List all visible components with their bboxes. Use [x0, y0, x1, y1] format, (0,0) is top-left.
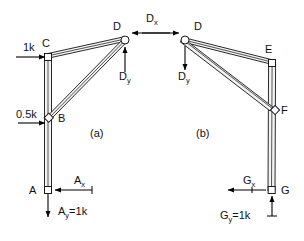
joint-label-E: E [265, 43, 272, 55]
subfigure-caption-b: (b) [196, 127, 209, 139]
member-B-D [47, 38, 127, 119]
joint-E [269, 60, 276, 67]
figure-canvas: 1k 0.5k Ax Ay=1k [0, 0, 304, 241]
joint-label-G: G [281, 184, 290, 196]
joint-D-right [181, 36, 189, 44]
joint-label-F: F [281, 104, 288, 116]
reaction-arrow-Ax [55, 186, 92, 194]
subfigure-caption-a: (a) [90, 127, 103, 139]
force-label-Dy-right: Dy [178, 70, 190, 85]
joint-G [268, 187, 275, 194]
force-label-Dy-left: Dy [119, 70, 131, 85]
joint-C [45, 54, 52, 61]
reaction-label-Gx: Gx [243, 174, 256, 189]
member-E-G [268, 63, 276, 191]
reaction-label-Gy: Gy=1k [220, 209, 251, 224]
reaction-label-Ay: Ay=1k [58, 205, 88, 220]
structural-free-body-diagram: 1k 0.5k Ax Ay=1k [0, 0, 304, 241]
joint-label-C: C [42, 37, 50, 49]
right-frame-group: Dy Gx Gy=1k D E F G [142, 20, 290, 224]
joint-label-A: A [29, 184, 37, 196]
reaction-arrow-Gx [228, 187, 266, 193]
reaction-arrow-Gy [267, 196, 277, 216]
joint-label-B: B [58, 112, 65, 124]
joint-A [45, 187, 52, 194]
force-label-1k: 1k [23, 41, 35, 53]
left-frame-group: 1k 0.5k Ax Ay=1k [16, 20, 170, 220]
reaction-label-Ax: Ax [74, 174, 85, 189]
force-label-05k: 0.5k [16, 108, 37, 120]
member-A-C [45, 57, 52, 191]
joint-D-left [121, 36, 129, 44]
joint-label-D-right: D [194, 20, 202, 32]
force-label-Dx: Dx [146, 12, 158, 27]
joint-label-D-left: D [113, 20, 121, 32]
